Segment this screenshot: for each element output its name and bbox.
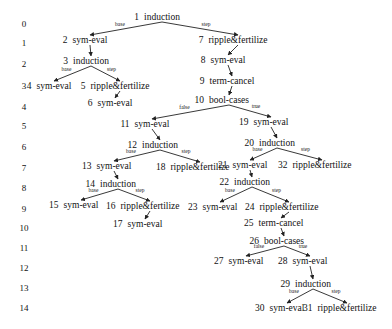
- edge-9-10: [229, 86, 232, 95]
- edge-7-8: [228, 45, 238, 55]
- tree-node-22: 22induction: [220, 177, 271, 187]
- edge-label-step: step: [136, 187, 145, 193]
- level-label: 10: [20, 223, 30, 233]
- node-label: induction: [73, 56, 109, 66]
- node-label: sym-eval: [203, 202, 238, 212]
- edge-5-6: [115, 91, 120, 98]
- tree-node-25: 25term-cancel: [244, 218, 304, 228]
- tree-node-30: 30sym-eval: [255, 303, 305, 313]
- node-number: 1: [134, 12, 139, 22]
- node-number: 31: [303, 303, 313, 313]
- edge-28-29: [310, 266, 313, 279]
- node-number: 6: [88, 98, 93, 108]
- level-label: 2: [22, 59, 27, 69]
- node-number: 30: [255, 303, 265, 313]
- node-number: 14: [86, 179, 96, 189]
- edge-8-9: [228, 65, 232, 76]
- node-label: sym-eval: [270, 303, 305, 313]
- node-label: ripple&fertilize: [208, 35, 267, 45]
- edge-25-26: [281, 228, 284, 236]
- node-label: sym-eval: [254, 117, 289, 127]
- level-label: 0: [22, 19, 27, 29]
- edge-20-32: [277, 148, 322, 160]
- edge-16-17: [145, 211, 150, 219]
- node-number: 18: [156, 162, 166, 172]
- level-label: 4: [22, 102, 27, 112]
- edge-label-true: true: [252, 103, 261, 109]
- node-label: sym-eval: [211, 55, 246, 65]
- node-number: 13: [82, 161, 92, 171]
- node-label: sym-eval: [73, 35, 108, 45]
- level-axis: 01234567891011121314: [20, 19, 30, 313]
- node-label: induction: [142, 140, 178, 150]
- node-label: sym-eval: [97, 161, 132, 171]
- edge-label-step: step: [272, 187, 281, 193]
- edge-19-20: [271, 127, 277, 138]
- tree-node-13: 13sym-eval: [82, 161, 132, 171]
- node-number: 28: [278, 256, 288, 266]
- level-label: 7: [22, 163, 27, 173]
- nodes-layer: 1induction2sym-eval3induction4sym-eval5r…: [27, 12, 377, 313]
- node-label: induction: [144, 12, 180, 22]
- node-label: ripple&fertilize: [120, 201, 179, 211]
- node-number: 8: [201, 55, 206, 65]
- level-label: 8: [22, 183, 27, 193]
- tree-node-1: 1induction: [134, 12, 180, 22]
- node-label: induction: [100, 179, 136, 189]
- level-label: 11: [20, 243, 29, 253]
- node-label: sym-eval: [233, 160, 268, 170]
- node-number: 26: [249, 236, 259, 246]
- edge-13-14: [114, 171, 118, 179]
- node-label: ripple&fertilize: [292, 160, 351, 170]
- tree-node-31: 31ripple&fertilize: [303, 303, 377, 313]
- edge-label-base: base: [115, 21, 125, 27]
- edge-10-11: [152, 105, 229, 119]
- node-label: sym-eval: [64, 200, 99, 210]
- level-label: 1: [22, 38, 27, 48]
- tree-node-27: 27sym-eval: [214, 256, 264, 266]
- proof-tree-diagram: 01234567891011121314 basestepbasestepfal…: [0, 0, 392, 329]
- node-label: sym-eval: [135, 119, 170, 129]
- tree-node-15: 15sym-eval: [49, 200, 99, 210]
- tree-node-32: 32ripple&fertilize: [278, 160, 352, 170]
- node-label: sym-eval: [229, 256, 264, 266]
- tree-node-26: 26bool-cases: [249, 236, 304, 246]
- node-number: 20: [245, 138, 255, 148]
- node-number: 16: [106, 201, 116, 211]
- tree-node-12: 12induction: [128, 140, 179, 150]
- edge-22-24: [252, 187, 289, 202]
- node-label: sym-eval: [128, 219, 163, 229]
- node-number: 12: [128, 140, 138, 150]
- node-number: 21: [218, 160, 228, 170]
- tree-node-23: 23sym-eval: [188, 202, 238, 212]
- edge-label-step: step: [301, 146, 310, 152]
- node-number: 23: [188, 202, 198, 212]
- tree-canvas: 01234567891011121314 basestepbasestepfal…: [0, 0, 392, 329]
- node-number: 19: [239, 117, 249, 127]
- tree-node-2: 2sym-eval: [63, 35, 108, 45]
- tree-node-28: 28sym-eval: [278, 256, 328, 266]
- node-label: ripple&fertilize: [259, 202, 318, 212]
- tree-node-17: 17sym-eval: [113, 219, 163, 229]
- node-number: 15: [49, 200, 59, 210]
- node-number: 5: [81, 81, 86, 91]
- node-label: ripple&fertilize: [90, 81, 149, 91]
- node-label: term-cancel: [259, 218, 304, 228]
- tree-node-10: 10bool-cases: [194, 95, 249, 105]
- node-number: 10: [194, 95, 204, 105]
- tree-node-20: 20induction: [245, 138, 296, 148]
- node-number: 9: [200, 76, 205, 86]
- edge-3-4: [54, 66, 91, 81]
- node-number: 32: [278, 160, 288, 170]
- node-label: ripple&fertilize: [317, 303, 376, 313]
- edge-12-18: [160, 150, 200, 162]
- node-number: 22: [220, 177, 230, 187]
- tree-node-8: 8sym-eval: [201, 55, 246, 65]
- node-number: 11: [120, 119, 129, 129]
- tree-node-19: 19sym-eval: [239, 117, 289, 127]
- node-label: term-cancel: [210, 76, 255, 86]
- node-number: 3: [63, 56, 68, 66]
- tree-node-11: 11sym-eval: [120, 119, 169, 129]
- tree-node-21: 21sym-eval: [218, 160, 268, 170]
- edge-14-16: [118, 189, 150, 201]
